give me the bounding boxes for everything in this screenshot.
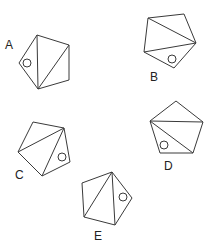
diagonal xyxy=(38,45,69,89)
figure-label: D xyxy=(164,159,173,173)
circle-marker xyxy=(168,55,176,63)
figure-label: B xyxy=(150,70,158,84)
diagonal xyxy=(148,18,196,43)
diagonal xyxy=(112,172,115,225)
figure-label: E xyxy=(94,229,102,243)
pentagon-puzzle-diagram: A B C D E xyxy=(0,0,213,247)
circle-marker xyxy=(58,153,66,161)
diagonal xyxy=(42,128,64,176)
figure-c: C xyxy=(15,122,70,182)
circle-marker xyxy=(119,193,127,201)
diagonal xyxy=(18,128,64,152)
diagonal xyxy=(84,172,112,217)
diagonal xyxy=(144,43,196,52)
figure-d: D xyxy=(150,101,203,173)
figure-label: A xyxy=(5,38,13,52)
figure-b: B xyxy=(144,14,196,84)
pentagon-outline xyxy=(18,122,70,176)
figure-e: E xyxy=(82,172,132,243)
diagonal xyxy=(37,35,38,89)
figure-a: A xyxy=(5,35,69,89)
circle-marker xyxy=(23,59,31,67)
figure-label: C xyxy=(15,168,24,182)
diagonal xyxy=(150,121,203,122)
diagonal xyxy=(150,121,193,153)
circle-marker xyxy=(160,141,168,149)
pentagon-outline xyxy=(144,14,196,68)
